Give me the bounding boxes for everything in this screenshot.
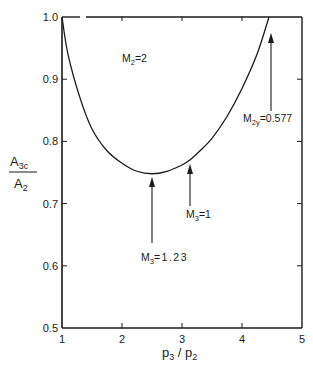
- x-tick-label: 4: [239, 333, 245, 345]
- x-tick-label: 2: [119, 333, 125, 345]
- y-tick-label: 0.6: [43, 260, 58, 272]
- y-tick-label: 1.0: [43, 11, 58, 23]
- annotation-m3-one: M3=1: [186, 208, 211, 223]
- annotation-m2y: M2y=0.577: [243, 112, 292, 127]
- chart-container: 12345 0.50.60.70.80.91.0 A3c A2 p3 / p2 …: [0, 0, 313, 374]
- series-line-m2-2: [62, 17, 269, 174]
- y-label-denominator: A2: [14, 176, 28, 193]
- annotation-m2: M2=2: [122, 52, 147, 67]
- plot-frame: [62, 17, 302, 328]
- x-axis-ticks: 12345: [59, 17, 305, 345]
- plot-svg: 12345 0.50.60.70.80.91.0 A3c A2 p3 / p2 …: [0, 0, 313, 374]
- x-tick-label: 3: [179, 333, 185, 345]
- y-tick-label: 0.9: [43, 73, 58, 85]
- y-tick-label: 0.8: [43, 135, 58, 147]
- x-tick-label: 5: [299, 333, 305, 345]
- y-tick-label: 0.7: [43, 198, 58, 210]
- arrow-m3-min: [149, 177, 155, 243]
- y-label-numerator: A3c: [10, 154, 29, 171]
- y-tick-label: 0.5: [43, 322, 58, 334]
- x-axis-label: p3 / p2: [162, 345, 197, 362]
- arrow-m3-one: [187, 164, 193, 206]
- x-tick-label: 1: [59, 333, 65, 345]
- y-axis-ticks: 0.50.60.70.80.91.0: [43, 11, 302, 334]
- annotation-m3-min: M3=1.23: [141, 251, 188, 266]
- y-axis-label: A3c A2: [9, 154, 37, 193]
- arrow-m2y: [268, 33, 274, 111]
